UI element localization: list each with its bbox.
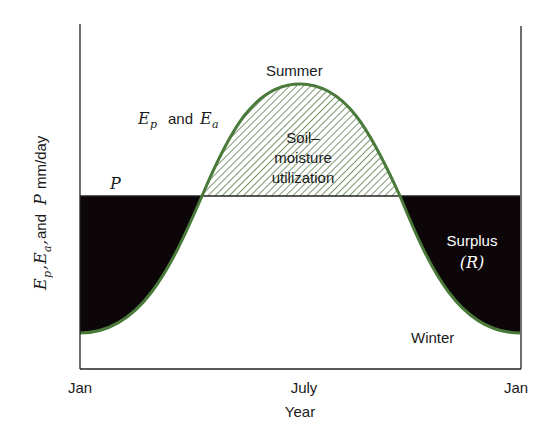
svg-text:E: E — [31, 252, 50, 265]
svg-text:Soil–: Soil– — [286, 129, 320, 146]
x-tick-jan-start: Jan — [68, 379, 92, 396]
svg-text:moisture: moisture — [274, 149, 332, 166]
y-axis-label: E p , E a , and P mm/day — [31, 135, 54, 291]
x-tick-july: July — [291, 379, 318, 396]
ep-ea-label: E p and E a — [137, 109, 219, 131]
svg-text:and: and — [168, 110, 193, 127]
svg-text:mm/day: mm/day — [32, 135, 49, 189]
svg-text:(R): (R) — [460, 253, 485, 272]
water-balance-diagram: Summer Winter E p and E a P Soil– moistu… — [0, 0, 555, 441]
svg-text:P: P — [31, 194, 50, 206]
svg-text:p: p — [150, 118, 157, 131]
p-label: P — [109, 174, 121, 193]
svg-text:p: p — [41, 271, 54, 278]
summer-label: Summer — [266, 62, 323, 79]
svg-text:Surplus: Surplus — [447, 232, 498, 249]
surplus-region — [80, 196, 202, 333]
x-tick-jan-end: Jan — [504, 379, 528, 396]
winter-label: Winter — [411, 329, 454, 346]
svg-text:E: E — [31, 278, 50, 291]
svg-text:a: a — [212, 118, 219, 131]
svg-text:E: E — [137, 109, 150, 128]
svg-text:utilization: utilization — [272, 169, 335, 186]
svg-text:,: , — [31, 240, 50, 245]
svg-text:a: a — [41, 245, 54, 252]
svg-text:and: and — [32, 214, 49, 239]
svg-text:E: E — [199, 109, 212, 128]
svg-text:,: , — [31, 265, 50, 270]
x-axis-label: Year — [285, 403, 315, 420]
